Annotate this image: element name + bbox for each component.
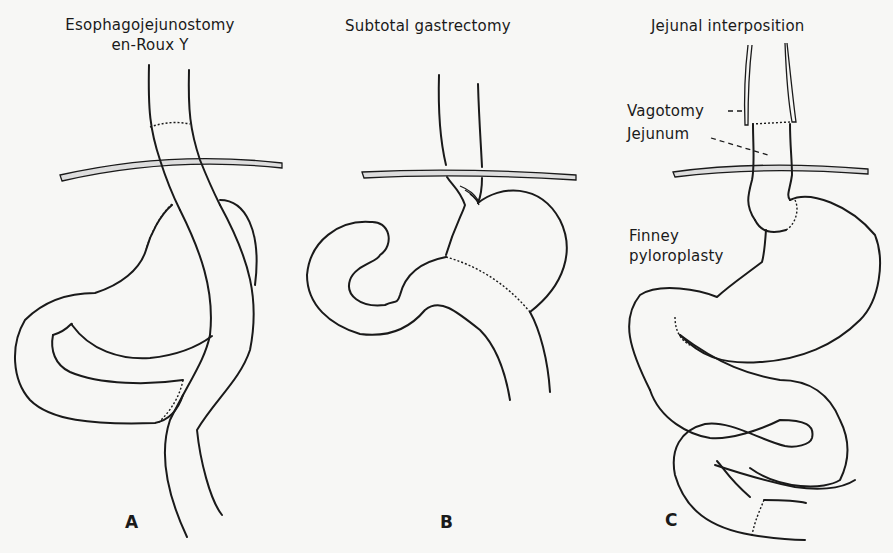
surgical-diagram <box>0 0 893 553</box>
panel-letter-a: A <box>125 512 138 532</box>
panel-letter-c: C <box>665 510 677 530</box>
panel-b-drawing <box>307 75 576 400</box>
panel-letter-b: B <box>440 512 453 532</box>
panel-c-title: Jejunal interposition <box>651 17 805 35</box>
panel-a-title: Esophagojejunostomy en-Roux Y <box>30 16 270 54</box>
jejunum-label: Jejunum <box>627 125 689 143</box>
diaphragm-a <box>60 159 282 181</box>
diaphragm-c <box>673 165 868 177</box>
panel-a-title-line2: en-Roux Y <box>30 36 270 54</box>
finney-label-line2: pyloroplasty <box>629 246 724 266</box>
panel-a-title-line1: Esophagojejunostomy <box>30 16 270 34</box>
finney-pyloroplasty-label: Finney pyloroplasty <box>629 226 724 266</box>
finney-label-line1: Finney <box>629 226 724 246</box>
panel-b-title: Subtotal gastrectomy <box>345 17 511 35</box>
vagotomy-label: Vagotomy <box>627 102 704 120</box>
panel-a-drawing <box>15 65 282 537</box>
diaphragm-b <box>362 170 576 180</box>
